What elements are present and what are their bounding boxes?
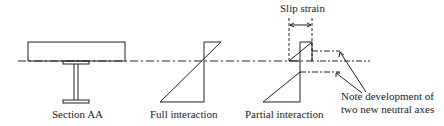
concrete-slab	[28, 42, 125, 61]
full-interaction-label: Full interaction	[150, 108, 218, 120]
partial-interaction-label: Partial interaction	[245, 108, 324, 120]
steel-i-beam	[63, 61, 89, 103]
note-line-2: two new neutral axes	[341, 103, 434, 115]
full-interaction-strain	[160, 42, 221, 102]
slip-dimension-arrow	[290, 23, 311, 27]
note-line-1: Note development of	[341, 90, 434, 102]
section-aa-label: Section AA	[52, 108, 103, 120]
note-leader-arrows	[336, 52, 366, 93]
composite-beam-diagram: Section AA Full interaction Partial inte…	[0, 0, 444, 126]
slip-strain-label: Slip strain	[280, 2, 325, 14]
